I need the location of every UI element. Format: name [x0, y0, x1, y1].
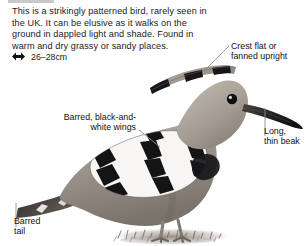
annotation-beak: Long, thin beak — [264, 126, 300, 147]
annotation-wings: Barred, black-and- white wings — [28, 112, 136, 133]
leader-line-crest — [205, 46, 229, 70]
annotation-tail: Barred tail — [14, 216, 40, 237]
leader-line-wings — [139, 130, 160, 147]
annotation-crest: Crest flat or fanned upright — [231, 41, 287, 62]
bird-field-guide-page: This is a strikingly patterned bird, rar… — [0, 0, 307, 246]
